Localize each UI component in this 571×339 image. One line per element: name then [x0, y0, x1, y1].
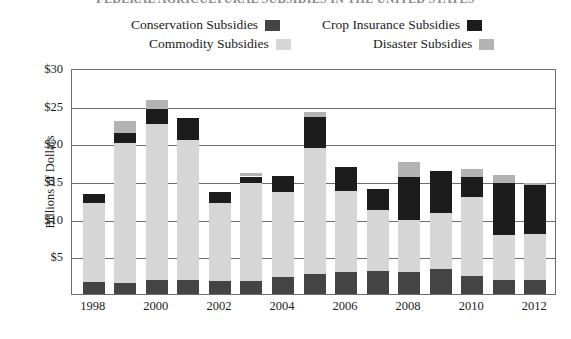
bar-segment — [304, 112, 326, 117]
bar-segment — [335, 191, 357, 272]
bar-segment — [240, 281, 262, 294]
bar-segment — [272, 176, 294, 191]
bar-segment — [398, 162, 420, 177]
bar-segment — [240, 173, 262, 177]
legend-label: Crop Insurance Subsidies — [322, 17, 460, 33]
bar-2012[interactable] — [524, 68, 546, 294]
bar-segment — [177, 280, 199, 294]
bar-segment — [146, 124, 168, 281]
bar-segment — [114, 143, 136, 283]
bar-2011[interactable] — [493, 68, 515, 294]
x-tick-label: 2004 — [260, 299, 304, 314]
bar-segment — [398, 220, 420, 272]
legend-swatch-conservation — [265, 20, 280, 31]
y-tick-label: $20 — [0, 137, 63, 152]
legend-label: Conservation Subsidies — [131, 17, 258, 33]
bar-segment — [83, 194, 105, 203]
bar-segment — [461, 197, 483, 276]
bar-segment — [524, 185, 546, 234]
legend-swatch-crop-insurance — [467, 20, 482, 31]
bar-segment — [493, 280, 515, 294]
bar-1998[interactable] — [83, 68, 105, 294]
x-tick-label: 2006 — [323, 299, 367, 314]
legend-swatch-disaster — [479, 39, 494, 50]
bar-segment — [524, 183, 546, 185]
bar-segment — [335, 167, 357, 190]
bar-segment — [304, 148, 326, 275]
x-tick-label: 2012 — [512, 299, 556, 314]
x-tick-label: 2000 — [134, 299, 178, 314]
bar-segment — [272, 277, 294, 294]
legend-item-disaster-subsidies[interactable]: Disaster Subsidies — [373, 36, 494, 52]
bar-segment — [240, 183, 262, 281]
y-tick-label: $25 — [0, 99, 63, 114]
bar-segment — [304, 117, 326, 148]
bar-segment — [209, 192, 231, 203]
bar-segment — [461, 276, 483, 294]
bar-segment — [209, 203, 231, 281]
bar-1999[interactable] — [114, 68, 136, 294]
bar-segment — [430, 269, 452, 294]
bar-segment — [398, 177, 420, 220]
bar-segment — [461, 169, 483, 177]
bar-segment — [240, 177, 262, 184]
bar-2007[interactable] — [367, 68, 389, 294]
bar-segment — [493, 235, 515, 279]
legend-label: Commodity Subsidies — [149, 36, 269, 52]
legend-item-conservation-subsidies[interactable]: Conservation Subsidies — [131, 17, 280, 33]
bar-segment — [430, 171, 452, 212]
bar-segment — [177, 118, 199, 141]
bar-segment — [146, 100, 168, 109]
bar-2008[interactable] — [398, 68, 420, 294]
x-tick-label: 1998 — [71, 299, 115, 314]
legend-row-1: Conservation Subsidies Crop Insurance Su… — [0, 17, 571, 36]
bar-segment — [304, 274, 326, 294]
x-tick-label: 2008 — [386, 299, 430, 314]
x-tick-label: 2010 — [449, 299, 493, 314]
plot-area — [71, 69, 556, 295]
bar-2005[interactable] — [304, 68, 326, 294]
bar-segment — [83, 282, 105, 294]
legend-item-commodity-subsidies[interactable]: Commodity Subsidies — [149, 36, 291, 52]
chart-root: FEDERAL AGRICULTURAL SUBSIDIES IN THE UN… — [0, 0, 571, 339]
bar-2002[interactable] — [209, 68, 231, 294]
bar-segment — [114, 121, 136, 133]
y-tick-label: $5 — [0, 250, 63, 265]
bar-segment — [367, 210, 389, 272]
bar-segment — [493, 183, 515, 235]
bar-segment — [493, 175, 515, 183]
chart-title: FEDERAL AGRICULTURAL SUBSIDIES IN THE UN… — [0, 0, 571, 3]
bar-2009[interactable] — [430, 68, 452, 294]
bar-segment — [146, 109, 168, 123]
legend-row-2: Commodity Subsidies Disaster Subsidies — [0, 36, 571, 55]
bar-segment — [367, 189, 389, 209]
bar-segment — [209, 281, 231, 294]
bar-segment — [114, 133, 136, 143]
y-tick-label: $15 — [0, 175, 63, 190]
bar-segment — [177, 140, 199, 280]
bar-2001[interactable] — [177, 68, 199, 294]
bar-segment — [114, 283, 136, 294]
bar-segment — [461, 177, 483, 197]
x-tick-label: 2002 — [197, 299, 241, 314]
bar-2006[interactable] — [335, 68, 357, 294]
bar-segment — [335, 272, 357, 294]
bar-segment — [430, 213, 452, 270]
bar-segment — [398, 272, 420, 294]
bar-segment — [367, 271, 389, 294]
bar-segment — [524, 234, 546, 281]
bar-segment — [524, 280, 546, 294]
bar-2003[interactable] — [240, 68, 262, 294]
bar-2000[interactable] — [146, 68, 168, 294]
bar-segment — [272, 192, 294, 278]
bar-2010[interactable] — [461, 68, 483, 294]
legend-label: Disaster Subsidies — [373, 36, 472, 52]
legend-swatch-commodity — [276, 39, 291, 50]
bar-2004[interactable] — [272, 68, 294, 294]
y-tick-label: $30 — [0, 62, 63, 77]
bar-segment — [146, 280, 168, 294]
chart-legend: Conservation Subsidies Crop Insurance Su… — [0, 17, 571, 57]
legend-item-crop-insurance-subsidies[interactable]: Crop Insurance Subsidies — [322, 17, 482, 33]
bar-segment — [83, 203, 105, 282]
y-tick-label: $10 — [0, 212, 63, 227]
